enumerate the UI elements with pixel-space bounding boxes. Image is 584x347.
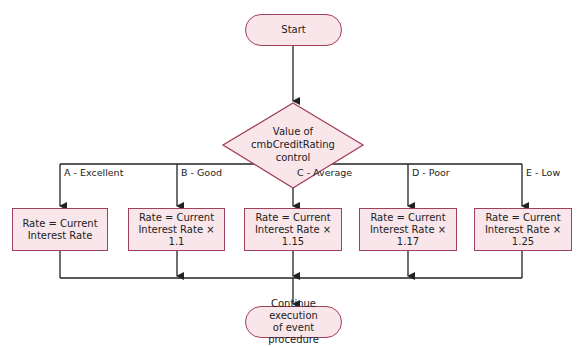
process-box-d: Rate = CurrentInterest Rate × 1.17 [359,208,457,251]
process-box-b: Rate = CurrentInterest Rate × 1.1 [128,208,225,251]
process-box-a: Rate = CurrentInterest Rate [12,208,108,251]
decision-label: Value of cmbCreditRating control [223,125,363,164]
branch-label-a: A - Excellent [64,167,123,178]
branch-label-b: B - Good [181,167,222,178]
process-box-c: Rate = CurrentInterest Rate × 1.15 [244,208,342,251]
branch-label-e: E - Low [526,167,560,178]
start-terminal: Start [245,14,342,46]
start-label: Start [281,24,305,36]
process-box-e: Rate = CurrentInterest Rate × 1.25 [474,208,572,251]
end-terminal: Continue executionof event procedure [245,306,342,338]
branch-label-c: C - Average [297,167,352,178]
branch-label-d: D - Poor [412,167,450,178]
